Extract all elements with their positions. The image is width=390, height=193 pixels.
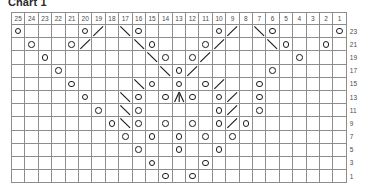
cell-nostitch-r5-c19 xyxy=(92,143,105,156)
right-decrease-icon xyxy=(79,38,91,50)
cell-knit-r23-c12 xyxy=(186,25,199,38)
cell-yo-r21-c2 xyxy=(319,38,332,51)
cell-knit-r19-c1 xyxy=(333,51,346,64)
cell-nostitch-r1-c8 xyxy=(239,170,252,183)
cell-knit-r23-c11 xyxy=(199,25,212,38)
column-label-20: 20 xyxy=(78,13,91,25)
left-decrease-icon xyxy=(119,91,131,103)
cell-yo-r19-c14 xyxy=(159,51,172,64)
cell-yo-r9-c10 xyxy=(212,117,225,130)
cell-yo-r19-c4 xyxy=(293,51,306,64)
yarn-over-icon xyxy=(253,91,265,103)
column-label-2: 2 xyxy=(319,13,332,25)
cell-yo-r21-c11 xyxy=(199,38,212,51)
cell-nostitch-r1-c17 xyxy=(119,170,132,183)
column-label-17: 17 xyxy=(119,13,132,25)
cell-yo-r13-c16 xyxy=(132,90,145,103)
yarn-over-icon xyxy=(213,104,225,116)
cell-nostitch-r3-c22 xyxy=(52,156,65,169)
yarn-over-icon xyxy=(79,25,91,37)
row-label-1: 1 xyxy=(346,170,359,183)
cell-knit-r17-c17 xyxy=(119,64,132,77)
cell-nostitch-r3-c25 xyxy=(12,156,25,169)
cell-knit-r23-c15 xyxy=(145,25,158,38)
cell-knit-r11-c15 xyxy=(145,104,158,117)
cell-nostitch-r5-c17 xyxy=(119,143,132,156)
cell-nostitch-r3-c2 xyxy=(319,156,332,169)
cell-nostitch-r7-c24 xyxy=(25,130,38,143)
right-decrease-icon xyxy=(92,25,104,37)
chart-row: 9 xyxy=(12,117,360,130)
cell-knit-r19-c13 xyxy=(172,51,185,64)
row-label-3: 3 xyxy=(346,156,359,169)
yarn-over-icon xyxy=(92,104,104,116)
cell-nostitch-r5-c3 xyxy=(306,143,319,156)
cell-knit-r19-c16 xyxy=(132,51,145,64)
chart-row: 3 xyxy=(12,156,360,169)
cell-nostitch-r1-c18 xyxy=(105,170,118,183)
cell-dec-r15-c16 xyxy=(132,77,145,90)
chart-grid: 2524232221201918171615141312111098765432… xyxy=(11,12,360,183)
cell-yo-r11-c7 xyxy=(253,104,266,117)
cell-knit-r3-c12 xyxy=(186,156,199,169)
cell-knit-r21-c12 xyxy=(186,38,199,51)
row-label-9: 9 xyxy=(346,117,359,130)
cell-nostitch-r1-c21 xyxy=(65,170,78,183)
cell-yo-r7-c15 xyxy=(145,130,158,143)
cell-nostitch-r13-c21 xyxy=(65,90,78,103)
yarn-over-icon xyxy=(266,25,278,37)
cell-nostitch-r9-c19 xyxy=(92,117,105,130)
cell-nostitch-r5-c7 xyxy=(253,143,266,156)
cell-knit-r23-c4 xyxy=(293,25,306,38)
cell-knit-r7-c16 xyxy=(132,130,145,143)
cell-nostitch-r1-c20 xyxy=(78,170,91,183)
cell-nostitch-r1-c22 xyxy=(52,170,65,183)
cell-nostitch-r13-c6 xyxy=(266,90,279,103)
cell-yo-r15-c15 xyxy=(145,77,158,90)
cell-nostitch-r9-c6 xyxy=(266,117,279,130)
cell-yo-r13-c20 xyxy=(78,90,91,103)
row-label-13: 13 xyxy=(346,90,359,103)
cell-knit-r23-c14 xyxy=(159,25,172,38)
cell-yo-r17-c6 xyxy=(266,64,279,77)
right-decrease-icon xyxy=(226,25,238,37)
cell-knit-r17-c18 xyxy=(105,64,118,77)
cell-nostitch-r15-c22 xyxy=(52,77,65,90)
cell-knit-r19-c19 xyxy=(92,51,105,64)
cell-nostitch-r11-c24 xyxy=(25,104,38,117)
cell-nostitch-r9-c2 xyxy=(319,117,332,130)
cell-knit-r17-c21 xyxy=(65,64,78,77)
cell-knit-r23-c24 xyxy=(25,25,38,38)
cell-knit-r11-c13 xyxy=(172,104,185,117)
cell-nostitch-r9-c5 xyxy=(279,117,292,130)
yarn-over-icon xyxy=(66,78,78,90)
cell-yo-r9-c18 xyxy=(105,117,118,130)
cell-yo-r13-c7 xyxy=(253,90,266,103)
yarn-over-icon xyxy=(159,51,171,63)
cell-nostitch-r3-c20 xyxy=(78,156,91,169)
cell-nostitch-r15-c5 xyxy=(279,77,292,90)
cell-knit-r13-c1 xyxy=(333,90,346,103)
cell-knit-r13-c18 xyxy=(105,90,118,103)
cell-nostitch-r9-c23 xyxy=(38,117,51,130)
cell-yo-r7-c9 xyxy=(226,130,239,143)
cell-dec-r17-c14 xyxy=(159,64,172,77)
cell-nostitch-r17-c5 xyxy=(279,64,292,77)
cell-nostitch-r5-c23 xyxy=(38,143,51,156)
cell-nostitch-r3-c23 xyxy=(38,156,51,169)
cell-knit-r15-c12 xyxy=(186,77,199,90)
cell-yo-r21-c5 xyxy=(279,38,292,51)
cell-dec-r23-c19 xyxy=(92,25,105,38)
cell-yo-r7-c17 xyxy=(119,130,132,143)
column-label-15: 15 xyxy=(145,13,158,25)
left-decrease-icon xyxy=(253,25,265,37)
cell-yo-r13-c14 xyxy=(159,90,172,103)
cell-knit-r15-c1 xyxy=(333,77,346,90)
cell-knit-r15-c19 xyxy=(92,77,105,90)
yarn-over-icon xyxy=(213,117,225,129)
cell-nostitch-r7-c20 xyxy=(78,130,91,143)
right-decrease-icon xyxy=(226,117,238,129)
cell-nostitch-r3-c4 xyxy=(293,156,306,169)
cell-nostitch-r1-c5 xyxy=(279,170,292,183)
yarn-over-icon xyxy=(199,157,211,169)
